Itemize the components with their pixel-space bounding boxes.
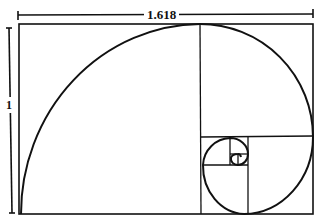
width-label: 1.618 <box>144 8 179 21</box>
height-dimension-line <box>6 28 15 213</box>
outer-rectangle <box>19 24 313 214</box>
golden-spiral <box>21 24 313 214</box>
height-label: 1 <box>6 97 12 113</box>
golden-spiral-diagram <box>0 0 318 219</box>
nested-squares <box>200 24 313 214</box>
